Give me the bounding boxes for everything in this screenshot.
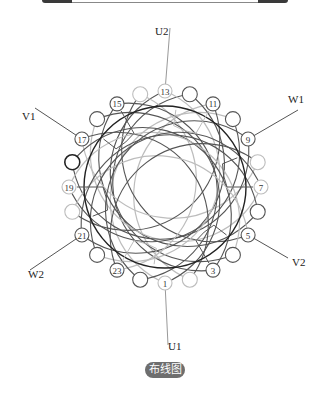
slot-label-23: 23 <box>113 266 123 276</box>
terminal-lead-w1 <box>248 110 298 139</box>
slot-label-7: 7 <box>259 183 264 193</box>
slot-20 <box>65 204 80 219</box>
slot-6 <box>250 204 265 219</box>
slot-label-19: 19 <box>65 183 75 193</box>
terminal-lead-u2 <box>165 28 170 91</box>
slot-label-17: 17 <box>77 135 87 145</box>
terminal-label-v2: V2 <box>292 256 305 268</box>
terminal-lead-v1 <box>35 108 82 139</box>
slot-2 <box>182 272 197 287</box>
slot-label-21: 21 <box>77 231 86 241</box>
slot-label-5: 5 <box>246 231 251 241</box>
slot-10 <box>225 112 240 127</box>
terminal-lead-u1 <box>165 283 168 345</box>
winding-diagram: 1357911131517192123U1U2V1V2W1W2 <box>0 0 329 394</box>
slot-label-3: 3 <box>211 266 216 276</box>
slot-label-15: 15 <box>113 99 123 109</box>
terminal-label-v1: V1 <box>22 110 35 122</box>
terminal-label-u1: U1 <box>168 340 181 352</box>
slot-24 <box>133 272 148 287</box>
terminal-lead-w2 <box>30 235 82 270</box>
terminal-label-w2: W2 <box>28 268 44 280</box>
terminal-label-u2: U2 <box>155 25 168 37</box>
slot-16 <box>90 112 105 127</box>
slot-18 <box>65 155 80 170</box>
slot-label-11: 11 <box>209 99 218 109</box>
slot-4 <box>225 247 240 262</box>
slot-12 <box>182 87 197 102</box>
slot-label-13: 13 <box>161 87 171 97</box>
slot-14 <box>133 87 148 102</box>
slot-label-9: 9 <box>246 135 251 145</box>
slot-label-1: 1 <box>163 279 168 289</box>
terminal-label-w1: W1 <box>288 93 304 105</box>
slot-8 <box>250 155 265 170</box>
slot-22 <box>90 247 105 262</box>
caption-badge: 布线图 <box>145 362 185 378</box>
